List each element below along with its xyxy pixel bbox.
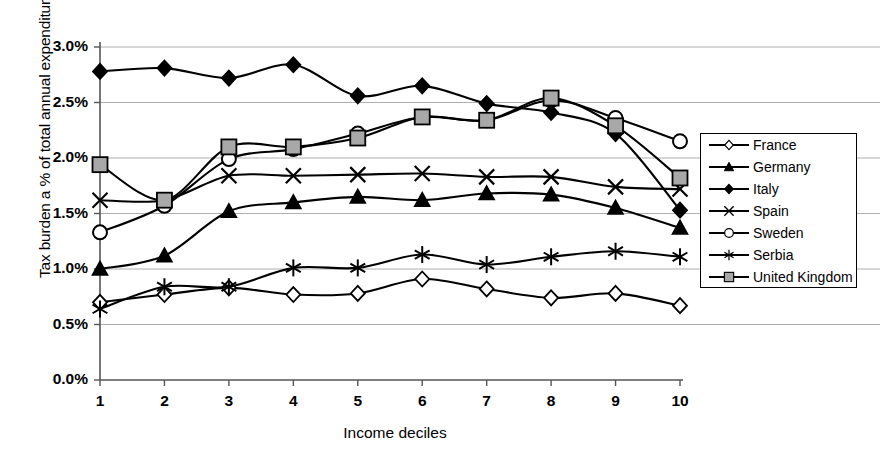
- marker-gray-square: [608, 118, 623, 133]
- marker-gray-square: [221, 139, 236, 154]
- legend-item-serbia[interactable]: Serbia: [701, 244, 856, 266]
- marker-filled-diamond: [222, 71, 236, 86]
- legend-marker-filled-triangle-icon: [707, 157, 751, 177]
- marker-open-diamond: [673, 298, 687, 313]
- legend-label: France: [753, 137, 797, 153]
- legend-marker: [725, 184, 734, 193]
- legend-label: Spain: [753, 203, 789, 219]
- legend-marker: [724, 272, 733, 281]
- marker-open-circle: [673, 134, 687, 148]
- legend-marker: [725, 229, 734, 238]
- marker-gray-square: [157, 193, 172, 208]
- marker-open-diamond: [415, 271, 429, 286]
- marker-filled-diamond: [351, 88, 365, 103]
- marker-filled-diamond: [480, 96, 494, 111]
- legend-item-germany[interactable]: Germany: [701, 156, 856, 178]
- series-line: [100, 251, 680, 309]
- marker-filled-diamond: [725, 184, 734, 193]
- series-united-kingdom: [93, 91, 688, 208]
- marker-filled-diamond: [415, 78, 429, 93]
- legend-marker-filled-diamond-icon: [707, 179, 751, 199]
- marker-filled-diamond: [157, 61, 171, 76]
- marker-open-diamond: [351, 286, 365, 301]
- legend-label: Sweden: [753, 225, 804, 241]
- legend-item-spain[interactable]: Spain: [701, 200, 856, 222]
- marker-filled-triangle: [157, 248, 172, 262]
- series-line: [100, 279, 680, 306]
- marker-gray-square: [415, 109, 430, 124]
- marker-gray-square: [724, 272, 733, 281]
- series-line: [100, 98, 680, 200]
- marker-open-circle: [725, 229, 734, 238]
- legend-marker-open-circle-icon: [707, 223, 751, 243]
- legend-label: Serbia: [753, 247, 793, 263]
- marker-filled-diamond: [286, 57, 300, 72]
- series-spain: [93, 166, 688, 208]
- legend-item-sweden[interactable]: Sweden: [701, 222, 856, 244]
- marker-gray-square: [479, 113, 494, 128]
- legend-label: Germany: [753, 159, 811, 175]
- legend-label: United Kingdom: [753, 269, 853, 285]
- marker-gray-square: [673, 170, 688, 185]
- marker-open-diamond: [480, 281, 494, 296]
- legend-marker-asterisk-icon: [707, 245, 751, 265]
- legend-marker-shape: [724, 272, 733, 281]
- legend-label: Italy: [753, 181, 779, 197]
- legend-marker: [725, 140, 734, 149]
- marker-open-diamond: [286, 287, 300, 302]
- marker-open-diamond: [609, 286, 623, 301]
- legend-item-united-kingdom[interactable]: United Kingdom: [701, 266, 856, 288]
- marker-filled-triangle: [221, 204, 236, 218]
- marker-gray-square: [286, 139, 301, 154]
- legend-marker-filled-square-gray-icon: [707, 267, 751, 287]
- legend-item-france[interactable]: France: [701, 134, 856, 156]
- marker-filled-diamond: [93, 64, 107, 79]
- legend-marker-shape: [725, 229, 734, 238]
- chart-figure: Tax burden a % of total annual expenditu…: [0, 0, 881, 458]
- legend-marker-x-cross-icon: [707, 201, 751, 221]
- legend-marker-shape: [725, 140, 734, 149]
- marker-gray-square: [350, 131, 365, 146]
- legend-marker-open-diamond-icon: [707, 135, 751, 155]
- legend-item-italy[interactable]: Italy: [701, 178, 856, 200]
- marker-open-circle: [93, 225, 107, 239]
- legend-marker-shape: [725, 184, 734, 193]
- series-line: [100, 193, 680, 269]
- series-serbia: [93, 243, 688, 318]
- marker-gray-square: [544, 91, 559, 106]
- series-line: [100, 100, 680, 232]
- legend: FranceGermanyItalySpainSwedenSerbiaUnite…: [700, 133, 857, 288]
- marker-open-diamond: [725, 140, 734, 149]
- marker-gray-square: [93, 157, 108, 172]
- marker-open-diamond: [544, 290, 558, 305]
- series-france: [93, 271, 687, 313]
